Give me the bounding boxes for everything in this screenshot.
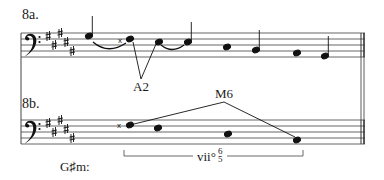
note-head [154, 124, 163, 132]
chord-label: vii° [197, 150, 216, 163]
final-barline [361, 33, 364, 144]
note-head [126, 121, 135, 129]
music-notation: x x [0, 0, 384, 180]
staff-a [21, 33, 365, 57]
tie [161, 45, 184, 50]
interval-label-a2: A2 [133, 80, 149, 94]
staff-b [21, 120, 365, 144]
note-head [293, 49, 302, 57]
staff-a-notes: x [85, 16, 330, 79]
double-sharp-icon: x [117, 121, 121, 130]
key-signature-a [46, 28, 76, 56]
note-head [126, 35, 135, 43]
note-head [293, 136, 302, 144]
double-sharp-icon: x [118, 36, 122, 45]
interval-lines-a2 [133, 42, 156, 79]
note-head [224, 130, 233, 138]
key-label: G♯m: [60, 160, 90, 174]
staff-b-notes: x [117, 102, 301, 144]
chord-figure-bottom: 5 [218, 155, 223, 163]
key-signature-b [46, 115, 76, 143]
interval-label-m6: M6 [215, 87, 233, 101]
note-head [223, 43, 232, 51]
